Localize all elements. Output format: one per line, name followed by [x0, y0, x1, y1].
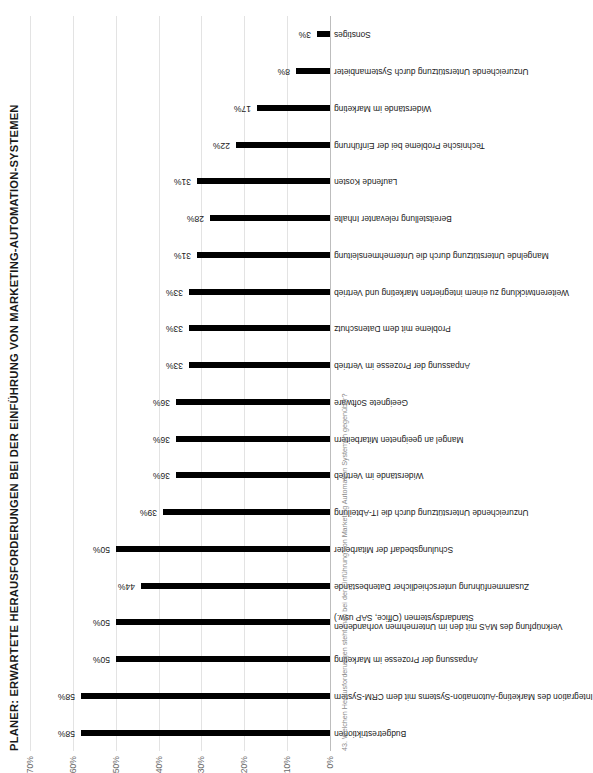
bar-value-label: 28%	[187, 214, 204, 224]
bar-slot[interactable]: 58%	[30, 714, 330, 751]
bar-slot[interactable]: 50%	[30, 641, 330, 678]
bar-value-label: 58%	[58, 729, 75, 739]
bar-value-label: 33%	[165, 361, 182, 371]
bar[interactable]	[189, 325, 330, 331]
bar[interactable]	[197, 178, 330, 184]
bar-slot[interactable]: 17%	[30, 90, 330, 127]
bar-slot[interactable]: 31%	[30, 237, 330, 274]
bar-slot[interactable]: 50%	[30, 531, 330, 568]
y-axis-tick-label: 60%	[68, 756, 78, 773]
bar-slot[interactable]: 28%	[30, 200, 330, 237]
plot-area: 0%10%20%30%40%50%60%70% 58%58%50%50%44%5…	[30, 16, 330, 751]
category-label: Bereitstellung relevanter Inhalte	[334, 213, 452, 222]
category-label: Mangelnde Unterstützung durch die Untern…	[334, 250, 549, 259]
bar[interactable]	[176, 436, 330, 442]
bar[interactable]	[236, 142, 330, 148]
bar-slot[interactable]: 36%	[30, 384, 330, 421]
bar[interactable]	[257, 105, 330, 111]
bar[interactable]	[176, 399, 330, 405]
bar-value-label: 3%	[299, 30, 311, 40]
bar[interactable]	[189, 289, 330, 295]
bar-slot[interactable]: 36%	[30, 457, 330, 494]
bar[interactable]	[197, 252, 330, 258]
bar-value-label: 39%	[140, 508, 157, 518]
category-label: Unzureichende Unterstützung durch System…	[334, 66, 529, 75]
bar-value-label: 33%	[165, 324, 182, 334]
bar-value-label: 36%	[153, 398, 170, 408]
bar[interactable]	[116, 656, 330, 662]
bar[interactable]	[116, 546, 330, 552]
bar[interactable]	[81, 693, 330, 699]
bar-value-label: 50%	[93, 545, 110, 555]
bar-slot[interactable]: 44%	[30, 567, 330, 604]
bar[interactable]	[176, 472, 330, 478]
category-label: Anpassung der Prozesse im Marketing	[334, 654, 478, 663]
category-label: Anpassung der Prozesse im Vertrieb	[334, 360, 470, 369]
bar-value-label: 31%	[174, 251, 191, 261]
category-label: Technische Probleme bei der Einführung	[334, 140, 485, 149]
category-label: Widerstände im Marketing	[334, 103, 431, 112]
bar-slot[interactable]: 22%	[30, 126, 330, 163]
category-label: Laufende Kosten	[334, 177, 397, 186]
bar-slot[interactable]: 58%	[30, 678, 330, 715]
bar-slot[interactable]: 33%	[30, 347, 330, 384]
bar-value-label: 22%	[213, 141, 230, 151]
bar[interactable]	[81, 730, 330, 736]
bar-value-label: 58%	[58, 692, 75, 702]
category-label: Verknüpfung des MAS mit den im Unternehm…	[334, 613, 563, 632]
category-label: Weiterentwicklung zu einem integrierten …	[334, 287, 569, 296]
bar-value-label: 50%	[93, 618, 110, 628]
y-axis-tick-label: 10%	[282, 756, 292, 773]
category-label: Unzureichende Unterstützung durch die IT…	[334, 507, 529, 516]
y-axis-tick-label: 20%	[239, 756, 249, 773]
bar-slot[interactable]: 39%	[30, 494, 330, 531]
bar-value-label: 44%	[118, 582, 135, 592]
y-axis-tick-label: 50%	[111, 756, 121, 773]
bar[interactable]	[141, 583, 330, 589]
category-label: Sonstiges	[334, 30, 371, 39]
bar-value-label: 36%	[153, 435, 170, 445]
category-label: Schulungsbedarf der Mitarbeiter	[334, 544, 453, 553]
bar-slot[interactable]: 33%	[30, 310, 330, 347]
bar-slot[interactable]: 36%	[30, 420, 330, 457]
bar[interactable]	[189, 362, 330, 368]
category-label: Mangel an geeigneten Mitarbeitern	[334, 434, 463, 443]
y-axis-tick-label: 40%	[154, 756, 164, 773]
bar-slot[interactable]: 8%	[30, 53, 330, 90]
y-axis-tick-label: 30%	[196, 756, 206, 773]
bar-value-label: 17%	[234, 104, 251, 114]
bar-value-label: 31%	[174, 177, 191, 187]
y-axis-tick-label: 0%	[325, 756, 335, 768]
bar-value-label: 33%	[165, 288, 182, 298]
chart-title: PLANER: ERWARTETE HERAUSFORDERUNGEN BEI …	[8, 11, 20, 751]
bar[interactable]	[296, 68, 330, 74]
bar-slot[interactable]: 3%	[30, 16, 330, 53]
bar-value-label: 50%	[93, 655, 110, 665]
bar[interactable]	[210, 215, 330, 221]
chart-footnote: 43. Welchen Herausforderungen steht man …	[340, 394, 349, 751]
bar-value-label: 8%	[277, 67, 289, 77]
bar[interactable]	[317, 31, 330, 37]
gridline: 0%	[330, 16, 331, 751]
bar-slot[interactable]: 33%	[30, 273, 330, 310]
bar-slot[interactable]: 31%	[30, 163, 330, 200]
category-label: Probleme mit dem Datenschutz	[334, 324, 451, 333]
y-axis-tick-label: 70%	[25, 756, 35, 773]
category-label: Zusammenführung unterschiedlicher Datenb…	[334, 581, 529, 590]
bar-series: 58%58%50%50%44%50%39%36%36%36%33%33%33%3…	[30, 16, 330, 751]
bar[interactable]	[163, 509, 330, 515]
bar-slot[interactable]: 50%	[30, 604, 330, 641]
bar[interactable]	[116, 619, 330, 625]
category-label: Integration des Marketing-Automation-Sys…	[334, 691, 593, 700]
bar-value-label: 36%	[153, 471, 170, 481]
